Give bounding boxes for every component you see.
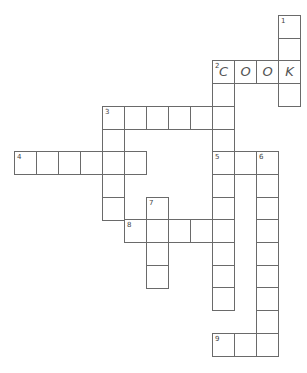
- crossword-cell[interactable]: 9: [212, 333, 235, 357]
- crossword-cell[interactable]: [58, 151, 81, 175]
- crossword-cell[interactable]: [256, 219, 279, 243]
- crossword-cell[interactable]: [190, 219, 213, 243]
- crossword-cell[interactable]: [102, 197, 125, 221]
- crossword-cell[interactable]: [212, 129, 235, 153]
- crossword-cell[interactable]: [234, 151, 257, 175]
- crossword-cell[interactable]: [212, 265, 235, 289]
- clue-number: 4: [17, 153, 21, 161]
- clue-number: 8: [127, 221, 131, 229]
- crossword-cell[interactable]: [256, 197, 279, 221]
- crossword-cell[interactable]: [190, 106, 213, 130]
- crossword-cell[interactable]: [256, 174, 279, 198]
- crossword-cell[interactable]: [124, 106, 147, 130]
- crossword-cell[interactable]: 7: [146, 197, 169, 221]
- crossword-cell[interactable]: 4: [14, 151, 37, 175]
- crossword-cell[interactable]: [234, 333, 257, 357]
- crossword-cell[interactable]: [212, 219, 235, 243]
- clue-number: 6: [259, 153, 263, 161]
- crossword-cell[interactable]: [256, 287, 279, 311]
- clue-number: 1: [281, 17, 285, 25]
- crossword-cell[interactable]: [256, 333, 279, 357]
- clue-number: 7: [149, 199, 153, 207]
- crossword-cell[interactable]: [212, 242, 235, 266]
- crossword-cell[interactable]: [168, 106, 191, 130]
- crossword-cell[interactable]: [102, 129, 125, 153]
- crossword-cell[interactable]: [212, 197, 235, 221]
- clue-number: 3: [105, 108, 109, 116]
- crossword-cell[interactable]: O: [234, 60, 257, 84]
- crossword-cell[interactable]: [146, 219, 169, 243]
- crossword-cell[interactable]: [124, 151, 147, 175]
- crossword-cell[interactable]: 2C: [212, 60, 235, 84]
- crossword-cell[interactable]: [212, 106, 235, 130]
- cell-letter: O: [235, 64, 256, 79]
- crossword-cell[interactable]: [278, 83, 301, 107]
- crossword-cell[interactable]: [146, 242, 169, 266]
- crossword-cell[interactable]: 6: [256, 151, 279, 175]
- crossword-cell[interactable]: [168, 219, 191, 243]
- crossword-cell[interactable]: O: [256, 60, 279, 84]
- crossword-cell[interactable]: [212, 287, 235, 311]
- crossword-cell[interactable]: [212, 83, 235, 107]
- crossword-cell[interactable]: [278, 38, 301, 62]
- crossword-cell[interactable]: [146, 106, 169, 130]
- cell-letter: K: [279, 64, 300, 79]
- clue-number: 5: [215, 153, 219, 161]
- crossword-cell[interactable]: [256, 265, 279, 289]
- crossword-cell[interactable]: [102, 151, 125, 175]
- cell-letter: O: [257, 64, 278, 79]
- crossword-cell[interactable]: [256, 242, 279, 266]
- crossword-cell[interactable]: [146, 265, 169, 289]
- crossword-cell[interactable]: K: [278, 60, 301, 84]
- cell-letter: C: [213, 64, 234, 79]
- crossword-cell[interactable]: 5: [212, 151, 235, 175]
- crossword-cell[interactable]: 8: [124, 219, 147, 243]
- crossword-cell[interactable]: [212, 174, 235, 198]
- crossword-cell[interactable]: [80, 151, 103, 175]
- crossword-grid: 1K2COO5346789: [0, 0, 307, 373]
- crossword-cell[interactable]: 1: [278, 15, 301, 39]
- crossword-cell[interactable]: [256, 310, 279, 334]
- crossword-cell[interactable]: [102, 174, 125, 198]
- clue-number: 9: [215, 335, 219, 343]
- crossword-cell[interactable]: 3: [102, 106, 125, 130]
- crossword-cell[interactable]: [36, 151, 59, 175]
